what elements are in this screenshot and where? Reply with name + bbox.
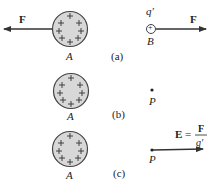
charged-sphere-a [53,12,88,47]
charged-sphere-b [54,74,89,109]
panel-label-a: (a) [111,51,123,62]
panel-b [54,74,154,109]
sphere-label-a: A [66,51,73,62]
test-charge-sign: + [148,24,153,32]
force-label-left: F [19,14,26,25]
diagram-canvas [0,0,212,186]
fraction-numerator: F [198,123,204,134]
panel-a [4,12,206,47]
point-label-p-b: P [149,96,156,107]
point-label-p-c: P [149,154,156,165]
fraction-denominator: q′ [196,137,203,148]
point-p-b [150,88,153,91]
field-arrow [153,149,203,150]
sphere-label-c: A [66,170,73,181]
panel-c [53,132,208,167]
force-label-right: F [190,14,197,25]
panel-label-c: (c) [113,168,125,179]
point-label-b: B [147,36,154,47]
panel-label-b: (b) [112,109,125,120]
equals-sign: = [185,129,191,140]
charged-sphere-c [53,132,88,167]
field-symbol: E [175,129,182,140]
sphere-label-b: A [67,111,74,122]
test-charge-label: q′ [146,6,154,17]
